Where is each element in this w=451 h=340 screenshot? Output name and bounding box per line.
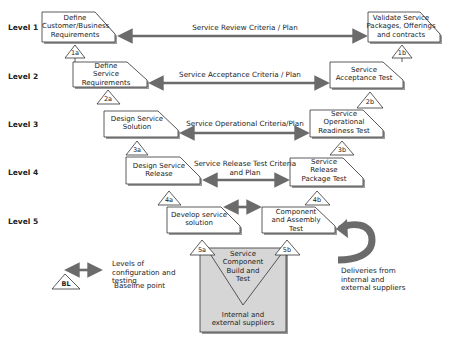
baseline-3a: 3a <box>127 146 147 154</box>
level-3-label: Level 3 <box>8 120 38 129</box>
design-service-solution-text: Design ServiceSolution <box>104 115 170 132</box>
service-operational-readiness-test-text: ServiceOperationalReadiness Test <box>310 110 378 135</box>
develop-service-solution-text: Develop servicesolution <box>167 211 231 228</box>
level-2-label: Level 2 <box>8 72 38 81</box>
level-4-label: Level 4 <box>8 168 38 177</box>
legend-baseline-symbol: BL <box>56 280 76 288</box>
define-customer-requirements-text: DefineCustomer/BusinessRequirements <box>42 14 108 39</box>
internal-external-suppliers-text: Internal andexternal suppliers <box>200 311 286 328</box>
arrow-level-4-label: Service Release Test Criteriaand Plan <box>190 160 300 177</box>
deliveries-label: Deliveries frominternal andexternal supp… <box>341 267 405 293</box>
service-acceptance-test-text: ServiceAcceptance Test <box>330 66 398 83</box>
component-assembly-test-text: Componentand AssemblyTest <box>262 208 330 233</box>
baseline-1b: 1b <box>392 49 412 57</box>
arrow-level-2-label: Service Acceptance Criteria / Plan <box>170 71 310 80</box>
service-release-package-test-text: ServiceReleasePackage Test <box>290 158 358 183</box>
baseline-1a: 1a <box>65 49 85 57</box>
baseline-4a: 4a <box>159 196 179 204</box>
baseline-5a: 5a <box>192 246 212 254</box>
baseline-4b: 4b <box>307 196 327 204</box>
define-service-requirements-text: DefineServiceRequirements <box>73 62 139 87</box>
baseline-5b: 5b <box>277 246 297 254</box>
baseline-2a: 2a <box>98 95 118 103</box>
arrow-level-1-label: Service Review Criteria / Plan <box>170 24 320 33</box>
level-5-label: Level 5 <box>8 217 38 226</box>
component-build-text: ServiceComponentBuild andTest <box>213 250 273 284</box>
legend-baseline-label: Baseline point <box>114 282 165 291</box>
arrow-level-3-label: Service Operational Criteria/Plan <box>180 120 310 129</box>
validate-service-packages-text: Validate ServicePackages, Offeringsand c… <box>366 14 436 39</box>
design-service-release-text: Design ServiceRelease <box>126 162 192 179</box>
level-1-label: Level 1 <box>8 23 38 32</box>
baseline-2b: 2b <box>360 98 380 106</box>
baseline-3b: 3b <box>332 146 352 154</box>
